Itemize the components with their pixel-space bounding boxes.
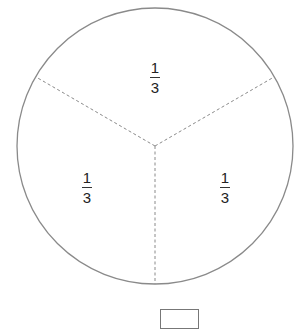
- fraction-top: 1 3: [145, 60, 165, 95]
- numerator: 1: [145, 60, 165, 75]
- numerator: 1: [77, 170, 97, 185]
- denominator: 3: [145, 80, 165, 95]
- denominator: 3: [215, 190, 235, 205]
- fraction-bar: [220, 187, 230, 188]
- fraction-bar: [82, 187, 92, 188]
- fraction-bottom-right: 1 3: [215, 170, 235, 205]
- numerator: 1: [215, 170, 235, 185]
- divider-left: [36, 77, 155, 146]
- denominator: 3: [77, 190, 97, 205]
- fraction-bottom-left: 1 3: [77, 170, 97, 205]
- fraction-bar: [150, 77, 160, 78]
- answer-box[interactable]: [160, 309, 199, 329]
- divider-right: [155, 77, 274, 146]
